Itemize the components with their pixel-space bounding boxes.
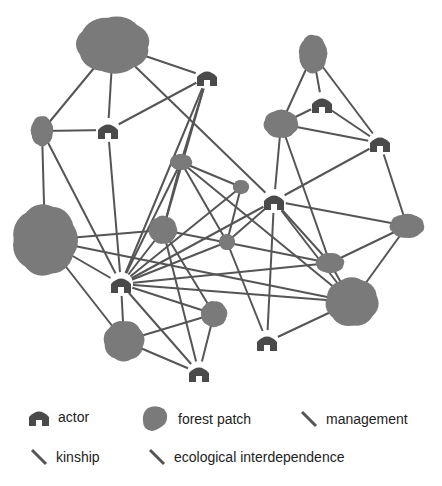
legend-kinship: kinship <box>30 448 100 466</box>
actor-icon <box>310 92 334 116</box>
forest-patch <box>170 154 192 170</box>
ecological-line-icon <box>148 448 166 466</box>
legend-actor: actor <box>28 408 89 426</box>
forest-patch <box>104 321 145 362</box>
forest-patch <box>233 180 249 194</box>
forest-patch-icon <box>140 404 170 434</box>
edge <box>45 240 352 302</box>
edge <box>267 201 274 342</box>
forest-patch <box>264 110 299 138</box>
actor-icon <box>255 330 279 354</box>
actor-icon <box>262 189 286 213</box>
forest-patch <box>219 234 235 250</box>
forest-patch <box>390 214 425 238</box>
kinship-line-icon <box>30 448 48 466</box>
edge <box>121 77 207 284</box>
management-line-icon <box>300 410 318 428</box>
actor-icon <box>187 361 211 385</box>
forest-patch <box>13 204 78 275</box>
legend: actor forest patch management kinship ec… <box>0 390 442 486</box>
edge <box>181 162 352 302</box>
actor-icon <box>96 118 120 142</box>
edge <box>227 187 241 242</box>
forest-patch <box>149 216 178 244</box>
forest-patch <box>299 35 328 74</box>
legend-kinship-label: kinship <box>56 449 100 465</box>
legend-management: management <box>300 410 408 428</box>
actor-icon <box>109 272 133 296</box>
actor-icon <box>28 408 50 426</box>
forest-patch <box>316 253 345 273</box>
legend-actor-label: actor <box>58 409 89 425</box>
forest-patch <box>201 301 228 327</box>
edge <box>121 284 352 302</box>
legend-management-label: management <box>326 411 408 427</box>
actor-icon <box>195 65 219 89</box>
legend-forest: forest patch <box>140 404 251 434</box>
network-diagram <box>0 0 442 390</box>
forest-layer <box>13 17 424 362</box>
forest-patch <box>326 277 379 326</box>
actor-icon <box>368 131 392 155</box>
legend-ecological: ecological interdependence <box>148 448 344 466</box>
edge <box>380 143 407 226</box>
forest-patch <box>76 17 149 74</box>
legend-forest-label: forest patch <box>178 411 251 427</box>
legend-ecological-label: ecological interdependence <box>174 449 344 465</box>
